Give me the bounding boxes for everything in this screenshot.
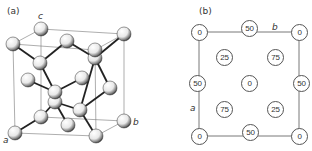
axis-a-label: a — [190, 104, 196, 113]
site-edge-top: 50 — [241, 20, 258, 37]
site-edge-bottom: 50 — [242, 124, 259, 141]
site-inner-ll: 75 — [216, 101, 233, 118]
site-inner-ur: 75 — [267, 49, 284, 66]
site-edge-left: 50 — [189, 75, 206, 92]
axis-b-label: b — [272, 23, 278, 32]
projection-square — [160, 0, 312, 151]
axis-b-label: b — [133, 118, 139, 127]
panel-b-projection: (b) b a 0 50 0 25 75 50 0 50 75 25 0 50 … — [160, 0, 312, 151]
site-corner-br: 0 — [291, 128, 308, 145]
site-corner-tl: 0 — [191, 24, 208, 41]
site-corner-bl: 0 — [191, 128, 208, 145]
site-corner-tr: 0 — [291, 24, 308, 41]
diamond-cell-drawing — [0, 0, 160, 151]
site-center: 0 — [241, 75, 258, 92]
site-inner-lr: 25 — [267, 101, 284, 118]
axis-a-label: a — [3, 136, 9, 145]
site-inner-ul: 25 — [216, 49, 233, 66]
panel-b-label: (b) — [199, 7, 212, 16]
site-edge-right: 50 — [293, 75, 310, 92]
panel-a-label: (a) — [7, 7, 20, 16]
panel-a-unit-cell: (a) c b a — [0, 0, 160, 151]
axis-c-label: c — [38, 12, 43, 21]
